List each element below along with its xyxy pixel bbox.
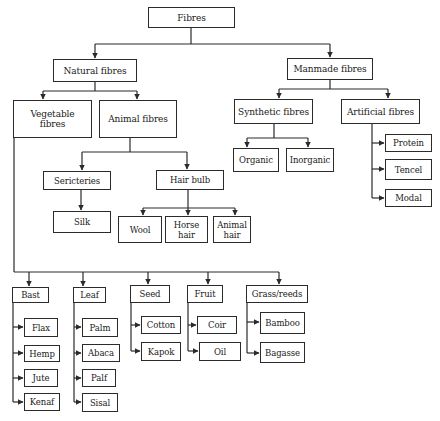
node-protein[interactable]: Protein	[385, 134, 432, 152]
node-animal-hair[interactable]: Animal hair	[213, 216, 251, 243]
node-hemp[interactable]: Hemp	[24, 345, 60, 362]
node-sericteries[interactable]: Sericteries	[43, 171, 111, 190]
node-organic[interactable]: Organic	[233, 148, 279, 172]
node-abaca[interactable]: Abaca	[82, 344, 120, 362]
node-horse-hair[interactable]: Horse hair	[165, 216, 208, 243]
node-bast[interactable]: Bast	[12, 287, 49, 303]
fibre-classification-diagram: Fibres Natural fibres Manmade fibres Veg…	[0, 0, 440, 421]
node-inorganic[interactable]: Inorganic	[286, 148, 334, 172]
node-sisal[interactable]: Sisal	[82, 393, 118, 412]
node-leaf[interactable]: Leaf	[73, 287, 106, 303]
node-natural-fibres[interactable]: Natural fibres	[53, 59, 137, 82]
node-jute[interactable]: Jute	[24, 369, 58, 387]
node-cotton[interactable]: Cotton	[141, 316, 181, 334]
node-modal[interactable]: Modal	[385, 189, 432, 207]
node-grass-reeds[interactable]: Grass/reeds	[246, 285, 308, 303]
node-kenaf[interactable]: Kenaf	[24, 393, 60, 411]
node-fibres[interactable]: Fibres	[148, 7, 235, 28]
node-palm[interactable]: Palm	[82, 318, 118, 337]
node-fruit[interactable]: Fruit	[187, 285, 223, 303]
node-hair-bulb[interactable]: Hair bulb	[156, 170, 224, 190]
node-synthetic-fibres[interactable]: Synthetic fibres	[234, 99, 313, 124]
node-bagasse[interactable]: Bagasse	[260, 342, 305, 363]
node-wool[interactable]: Wool	[118, 216, 162, 243]
node-oil[interactable]: Oil	[199, 342, 241, 361]
node-coir[interactable]: Coir	[197, 316, 237, 334]
node-artificial-fibres[interactable]: Artificial fibres	[341, 99, 420, 124]
node-palf[interactable]: Palf	[82, 369, 116, 387]
node-animal-fibres[interactable]: Animal fibres	[99, 100, 177, 138]
node-flax[interactable]: Flax	[24, 318, 58, 337]
node-kapok[interactable]: Kapok	[141, 342, 181, 361]
node-vegetable-fibres[interactable]: Vegetable fibres	[13, 100, 92, 138]
node-manmade-fibres[interactable]: Manmade fibres	[287, 58, 373, 80]
node-bamboo[interactable]: Bamboo	[260, 312, 305, 334]
node-tencel[interactable]: Tencel	[385, 159, 432, 180]
node-seed[interactable]: Seed	[130, 285, 170, 303]
node-silk[interactable]: Silk	[53, 211, 111, 233]
